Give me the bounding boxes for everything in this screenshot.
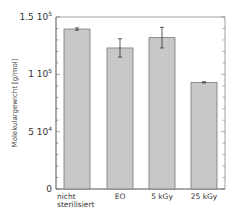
bar-0 — [64, 29, 90, 189]
x-category-label: sterilisiert — [57, 200, 94, 209]
bar-chart: Molekulargewicht [g/mol] 05 1041 1051.5 … — [0, 0, 234, 214]
bar-3 — [191, 82, 217, 189]
bars — [64, 27, 217, 189]
bar-2 — [149, 38, 175, 189]
x-category-label: 5 kGy — [151, 192, 173, 201]
y-axis-title: Molekulargewicht [g/mol] — [11, 58, 19, 147]
x-axis-labels: nichtsterilisiertEO5 kGy25 kGy — [57, 192, 218, 209]
y-tick-label: 0 — [46, 184, 52, 194]
y-axis-label: Molekulargewicht [g/mol] — [11, 58, 19, 147]
x-category-label: EO — [115, 192, 126, 201]
bar-1 — [107, 48, 133, 189]
y-tick-label: 1 105 — [28, 67, 52, 79]
y-tick-label: 5 104 — [28, 125, 52, 137]
y-tick-label: 1.5 105 — [20, 10, 53, 22]
x-category-label: 25 kGy — [191, 192, 218, 201]
